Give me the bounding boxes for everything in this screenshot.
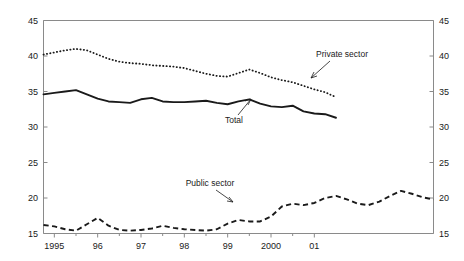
y-label-right-35: 35 <box>439 87 449 97</box>
y-label-left-20: 20 <box>28 193 38 203</box>
line-chart: 45 40 35 30 25 20 15 45 40 35 30 25 20 1… <box>0 0 464 261</box>
x-label-2000: 2000 <box>261 241 281 251</box>
y-label-left-30: 30 <box>28 122 38 132</box>
x-label-01: 01 <box>309 241 319 251</box>
y-label-right-45: 45 <box>439 16 449 26</box>
x-label-99: 99 <box>223 241 233 251</box>
y-label-left-40: 40 <box>28 51 38 61</box>
y-label-left-25: 25 <box>28 158 38 168</box>
y-label-left-45: 45 <box>28 16 38 26</box>
y-label-right-25: 25 <box>439 158 449 168</box>
y-label-left-15: 15 <box>28 229 38 239</box>
y-label-left-35: 35 <box>28 87 38 97</box>
x-label-98: 98 <box>179 241 189 251</box>
x-label-96: 96 <box>93 241 103 251</box>
x-label-97: 97 <box>136 241 146 251</box>
x-label-1995: 1995 <box>44 241 64 251</box>
y-label-right-30: 30 <box>439 122 449 132</box>
y-label-right-20: 20 <box>439 193 449 203</box>
chart-container: 45 40 35 30 25 20 15 45 40 35 30 25 20 1… <box>0 0 464 261</box>
annotation-label-total: Total <box>225 115 243 125</box>
annotation-label-private-sector: Private sector <box>316 49 368 59</box>
annotation-label-public-sector: Public sector <box>186 178 235 188</box>
y-label-right-40: 40 <box>439 51 449 61</box>
y-label-right-15: 15 <box>439 229 449 239</box>
